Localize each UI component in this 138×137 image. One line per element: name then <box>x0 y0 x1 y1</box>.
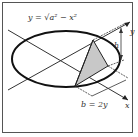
y-axis-line <box>8 22 130 90</box>
y-axis-label: y <box>130 28 135 36</box>
base-label: b = 2y <box>81 101 108 109</box>
diagram-frame: y = √a² − x² h b = 2y x y <box>0 0 138 137</box>
equation-label: y = √a² − x² <box>28 14 77 22</box>
height-label: h <box>114 42 119 50</box>
x-axis-label: x <box>125 102 130 110</box>
